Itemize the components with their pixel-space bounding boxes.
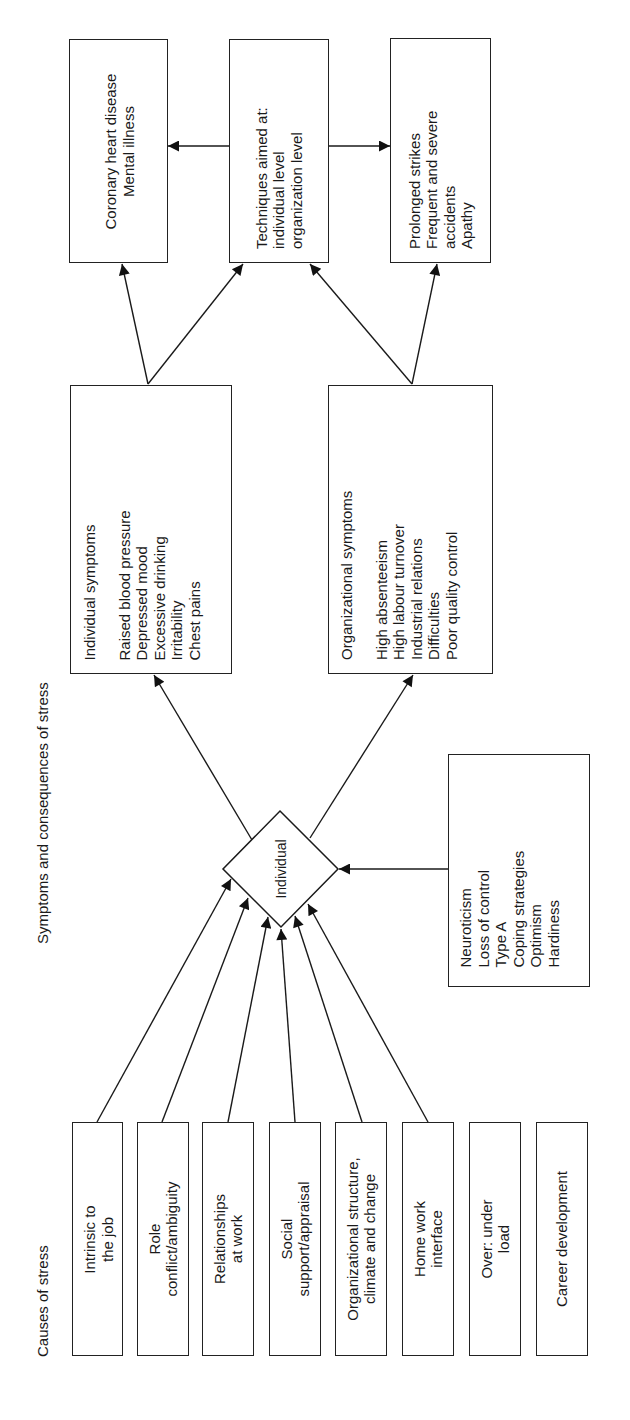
organizational-symptoms-text: Organizational symptoms High absenteeism… [328, 385, 493, 674]
text-line: Excessive drinking [150, 536, 168, 660]
text-line: conflict/ambiguity [163, 1181, 181, 1296]
cause-box-role: Role conflict/ambiguity [137, 1122, 189, 1356]
individual-node-label: Individual [273, 839, 289, 898]
text-line: Frequent and severe [423, 111, 441, 249]
text-line: Type A [491, 921, 509, 967]
outcome-box-organizational: Prolonged strikes Frequent and severe ac… [390, 38, 491, 263]
text-line: organization level [288, 132, 306, 249]
arrow-ind-to-techniques [148, 264, 243, 384]
text-line: Optimism [526, 904, 544, 967]
text-line: Raised blood pressure [115, 510, 133, 660]
text-line: individual level [270, 151, 288, 249]
text-line: Social [278, 1219, 296, 1260]
outcome-organizational-text: Prolonged strikes Frequent and severe ac… [390, 38, 491, 263]
arrow-org-structure [295, 916, 362, 1122]
text-line: Poor quality control [443, 532, 461, 660]
individual-symptoms-box: Individual symptoms Raised blood pressur… [70, 385, 232, 674]
cause-box-social: Social support/appraisal [269, 1122, 321, 1356]
text-line: accidents [441, 186, 459, 249]
organizational-symptoms-heading: Organizational symptoms [338, 491, 356, 660]
text-line: Home work [411, 1201, 429, 1277]
text-line: Intrinsic to [80, 1205, 98, 1273]
arrow-ind-to-disease [122, 264, 148, 384]
arrow-to-org-symptoms [310, 675, 413, 838]
text-line: Loss of control [474, 869, 492, 967]
individual-symptoms-heading: Individual symptoms [80, 524, 98, 660]
text-line: load [495, 1225, 513, 1253]
text-line: Apathy [458, 202, 476, 249]
text-line: at work [228, 1215, 246, 1263]
text-line: interface [428, 1210, 446, 1268]
text-line: Chest pains [185, 581, 203, 660]
text-line: Hardiness [544, 899, 562, 967]
text-line: Difficulties [425, 592, 443, 660]
moderators-box: Neuroticism Loss of control Type A Copin… [448, 754, 590, 987]
cause-text: Over: under load [469, 1122, 521, 1356]
symptoms-title: Symptoms and consequences of stress [34, 682, 51, 944]
arrow-intrinsic [97, 879, 231, 1122]
cause-box-workload: Over: under load [469, 1122, 521, 1356]
cause-box-career: Career development [536, 1122, 588, 1356]
cause-text: Social support/appraisal [269, 1122, 321, 1356]
text-line: the job [98, 1216, 116, 1261]
text-line: support/appraisal [295, 1181, 313, 1296]
text-line: Organizational structure, [344, 1157, 362, 1320]
outcome-box-individual: Coronary heart disease Mental illness [69, 39, 168, 263]
text-line: climate and change [361, 1174, 379, 1304]
text-line: High labour turnover [390, 524, 408, 660]
causes-title: Causes of stress [34, 1245, 51, 1357]
cause-text: Intrinsic to the job [72, 1122, 123, 1356]
text-line: Coronary heart disease [101, 73, 119, 229]
text-line: Industrial relations [408, 538, 426, 660]
text-line: Neuroticism [456, 888, 474, 967]
interventions-text: Techniques aimed at: individual level or… [229, 39, 329, 263]
text-line: Prolonged strikes [406, 133, 424, 249]
outcome-individual-text: Coronary heart disease Mental illness [69, 39, 168, 263]
text-line: Over: under [478, 1199, 496, 1278]
cause-box-org-structure: Organizational structure, climate and ch… [335, 1122, 387, 1356]
arrow-to-individual-symptoms [154, 675, 252, 840]
arrow-social [281, 929, 295, 1122]
text-line: Career development [553, 1171, 571, 1307]
arrow-relationships [228, 917, 268, 1122]
cause-box-relationships: Relationships at work [202, 1122, 254, 1356]
cause-text: Home work interface [402, 1122, 454, 1356]
text-line: Relationships [211, 1194, 229, 1284]
text-line: Role [146, 1224, 164, 1255]
interventions-box: Techniques aimed at: individual level or… [229, 39, 329, 263]
text-line: Coping strategies [509, 850, 527, 967]
text-line: High absenteeism [373, 540, 391, 660]
moderators-text: Neuroticism Loss of control Type A Copin… [448, 754, 590, 987]
text-line: Mental illness [119, 106, 137, 197]
arrow-org-to-strikes [412, 264, 437, 384]
cause-text: Career development [536, 1122, 588, 1356]
organizational-symptoms-box: Organizational symptoms High absenteeism… [328, 385, 493, 674]
text-line: Depressed mood [132, 546, 150, 660]
cause-text: Organizational structure, climate and ch… [335, 1122, 387, 1356]
text-line: Techniques aimed at: [253, 107, 271, 249]
stress-model-diagram: Individual Causes of stress Symptoms and… [0, 0, 630, 1420]
cause-box-intrinsic: Intrinsic to the job [72, 1122, 123, 1356]
arrow-org-to-techniques [310, 264, 412, 384]
cause-text: Role conflict/ambiguity [137, 1122, 189, 1356]
text-line: Irritability [167, 600, 185, 660]
individual-symptoms-text: Individual symptoms Raised blood pressur… [70, 385, 232, 674]
cause-text: Relationships at work [202, 1122, 254, 1356]
cause-box-home-work: Home work interface [402, 1122, 454, 1356]
